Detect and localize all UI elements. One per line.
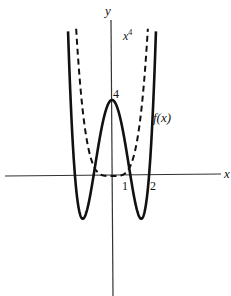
- x-tick-2: 2: [150, 179, 156, 193]
- f-curve-label: f(x): [153, 110, 171, 125]
- graph-figure: y x 4 1 2 f(x) x4: [0, 0, 231, 296]
- x-tick-1: 1: [122, 179, 128, 193]
- peak-tick-label: 4: [113, 87, 119, 101]
- y-axis-label: y: [103, 3, 111, 18]
- plot-canvas: y x 4 1 2 f(x) x4: [0, 0, 231, 296]
- x-axis-label: x: [223, 166, 230, 181]
- x4-curve-label: x4: [122, 28, 132, 43]
- y-axis: [111, 20, 113, 296]
